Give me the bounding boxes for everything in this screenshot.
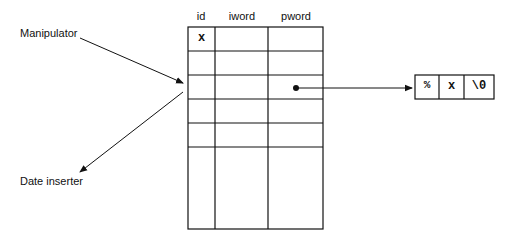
column-header-pword: pword xyxy=(271,10,321,22)
date-inserter-arrow xyxy=(80,92,183,172)
string-cell-x: x xyxy=(439,79,464,93)
string-cell-null-terminator: \0 xyxy=(464,79,494,93)
table-cell-id-row1: x xyxy=(188,31,215,45)
manipulator-arrow xyxy=(80,38,183,83)
column-header-iword: iword xyxy=(217,10,267,22)
table-grid xyxy=(188,27,323,229)
string-cell-percent: % xyxy=(415,79,439,91)
manipulator-label: Manipulator xyxy=(20,27,77,39)
date-inserter-label: Date inserter xyxy=(20,175,83,187)
